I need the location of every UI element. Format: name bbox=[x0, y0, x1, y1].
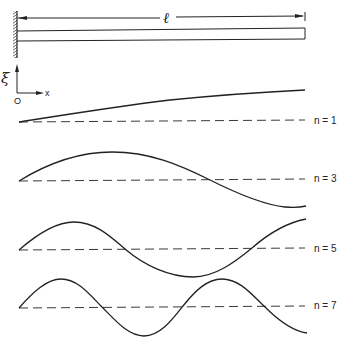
beam bbox=[17, 28, 305, 41]
mode-label: n = 5 bbox=[314, 243, 337, 254]
length-label: ℓ bbox=[163, 9, 169, 27]
mode-shape-n7: n = 7 bbox=[19, 279, 337, 336]
mode-label: n = 3 bbox=[314, 173, 337, 184]
mode-shape-n5: n = 5 bbox=[19, 219, 337, 277]
length-dimension: ℓ bbox=[18, 9, 305, 27]
fixed-wall bbox=[13, 11, 17, 58]
beam-mode-diagram: ℓ ξ O x n = 1 n = 3 n = 5 n = 7 bbox=[0, 0, 345, 348]
mode-shape-n3: n = 3 bbox=[19, 152, 337, 207]
arrow-right-icon bbox=[295, 14, 304, 18]
xi-axis-label: ξ bbox=[1, 69, 10, 87]
mode-shape-n1: n = 1 bbox=[19, 90, 337, 126]
mode-label: n = 1 bbox=[314, 115, 337, 126]
coordinate-axes: ξ O x bbox=[1, 64, 50, 106]
x-axis-label: x bbox=[45, 88, 50, 98]
mode-label: n = 7 bbox=[314, 300, 337, 311]
arrow-up-icon bbox=[15, 64, 19, 72]
origin-label: O bbox=[14, 96, 21, 106]
arrow-left-icon bbox=[18, 16, 27, 20]
arrow-right-icon bbox=[36, 91, 44, 95]
